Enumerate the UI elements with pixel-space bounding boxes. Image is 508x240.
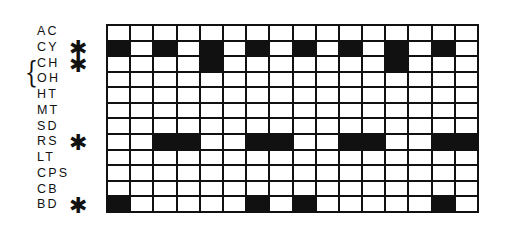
- grid-cell: [409, 119, 430, 133]
- grid-cell: [317, 151, 338, 165]
- grid-cell: [317, 135, 338, 149]
- grid-cell: [294, 42, 315, 56]
- grid-cell: [270, 166, 291, 180]
- grid-cell: [456, 135, 477, 149]
- grid-cell: [456, 166, 477, 180]
- grid-cell: [131, 88, 152, 102]
- row-label-cb: CB: [37, 182, 59, 198]
- grid-cell: [386, 26, 407, 40]
- grid-cell: [247, 88, 268, 102]
- grid-cell: [363, 57, 384, 71]
- grid-cell: [154, 151, 175, 165]
- grid-cell: [294, 166, 315, 180]
- grid-cell: [224, 73, 245, 87]
- grid-cell: [409, 26, 430, 40]
- row-label-cps: CPS: [37, 166, 69, 182]
- grid-cell: [456, 151, 477, 165]
- grid-cell: [433, 197, 454, 211]
- row-label-ht: HT: [37, 87, 58, 103]
- grid-cell: [433, 42, 454, 56]
- grid-cell: [224, 151, 245, 165]
- grid-cell: [224, 119, 245, 133]
- grid-cell: [363, 88, 384, 102]
- grid-cell: [456, 88, 477, 102]
- grid-cell: [108, 26, 129, 40]
- grid-cell: [154, 182, 175, 196]
- grid-cell: [201, 88, 222, 102]
- grid-cell: [201, 197, 222, 211]
- grid-cell: [201, 182, 222, 196]
- grid-cell: [154, 119, 175, 133]
- grid-cell: [433, 57, 454, 71]
- grid-cell: [409, 182, 430, 196]
- grid-cell: [456, 182, 477, 196]
- grid-cell: [131, 26, 152, 40]
- grid-cell: [433, 73, 454, 87]
- grid-cell: [247, 73, 268, 87]
- grid-cell: [178, 88, 199, 102]
- grid-cell: [409, 151, 430, 165]
- grid-cell: [224, 88, 245, 102]
- grid-cell: [178, 182, 199, 196]
- grid-cell: [224, 104, 245, 118]
- grid-cell: [340, 73, 361, 87]
- grid-cell: [131, 57, 152, 71]
- grid-cell: [340, 104, 361, 118]
- grid-cell: [131, 73, 152, 87]
- grid-cell: [131, 197, 152, 211]
- grid-cell: [386, 166, 407, 180]
- grid-cell: [433, 182, 454, 196]
- grid-cell: [433, 88, 454, 102]
- grid-cell: [154, 57, 175, 71]
- grid-cell: [108, 42, 129, 56]
- grid-cell: [154, 166, 175, 180]
- grid-cell: [317, 104, 338, 118]
- row-label-mt: MT: [37, 103, 59, 119]
- grid-cell: [247, 104, 268, 118]
- row-label-lt: LT: [37, 150, 55, 166]
- grid-cell: [340, 151, 361, 165]
- grid-cell: [386, 42, 407, 56]
- grid-cell: [340, 182, 361, 196]
- grid-cell: [433, 151, 454, 165]
- grid-cell: [270, 104, 291, 118]
- grid-cell: [131, 166, 152, 180]
- grid-cell: [178, 104, 199, 118]
- grid-cell: [317, 73, 338, 87]
- grid-cell: [363, 119, 384, 133]
- grid-cell: [108, 197, 129, 211]
- row-label-cy: CY: [37, 40, 59, 56]
- grid-cell: [224, 197, 245, 211]
- grid-cell: [363, 182, 384, 196]
- grid-cell: [270, 151, 291, 165]
- grid-cell: [317, 57, 338, 71]
- grid-cell: [294, 104, 315, 118]
- grid-cell: [317, 26, 338, 40]
- grid-cell: [131, 119, 152, 133]
- grid-cell: [154, 135, 175, 149]
- grid-cell: [386, 182, 407, 196]
- grid-cell: [201, 57, 222, 71]
- grid-cell: [294, 57, 315, 71]
- grid-cell: [154, 26, 175, 40]
- grid-cell: [409, 88, 430, 102]
- grid-cell: [294, 119, 315, 133]
- grid-cell: [201, 135, 222, 149]
- grid-cell: [317, 166, 338, 180]
- grid-cell: [409, 197, 430, 211]
- grid-cell: [340, 88, 361, 102]
- grid-cell: [247, 166, 268, 180]
- grid-cell: [154, 42, 175, 56]
- grid-cell: [108, 57, 129, 71]
- grid-cell: [154, 197, 175, 211]
- grid-cell: [456, 73, 477, 87]
- grid-cell: [409, 166, 430, 180]
- grid-cell: [340, 26, 361, 40]
- grid-cell: [154, 88, 175, 102]
- grid-cell: [270, 42, 291, 56]
- grid-cell: [363, 104, 384, 118]
- grid-cell: [433, 119, 454, 133]
- grid-cell: [433, 104, 454, 118]
- grid-cell: [386, 119, 407, 133]
- row-label-bd: BD: [37, 197, 59, 213]
